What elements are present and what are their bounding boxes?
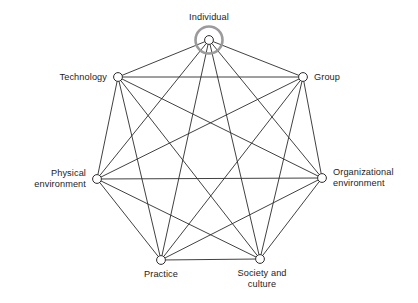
node-physical-environment[interactable] [93, 175, 102, 184]
node-technology[interactable] [114, 73, 123, 82]
node-individual[interactable] [205, 36, 214, 45]
edge-organizational-environment-to-practice [165, 180, 318, 258]
edge-individual-to-group [213, 42, 299, 76]
edge-practice-to-physical-environment [100, 182, 159, 256]
edge-organizational-environment-to-society-and-culture [263, 181, 320, 255]
edge-practice-to-technology [119, 81, 160, 255]
node-practice[interactable] [157, 256, 166, 265]
edge-physical-environment-to-technology [98, 81, 117, 174]
edge-individual-to-practice [162, 44, 208, 255]
edge-individual-to-technology [122, 42, 205, 76]
edge-organizational-environment-to-physical-environment [101, 178, 317, 179]
edge-society-and-culture-to-technology [121, 80, 258, 255]
edge-individual-to-society-and-culture [210, 44, 259, 254]
edge-individual-to-organizational-environment [212, 43, 319, 174]
node-layer [93, 27, 327, 265]
edge-group-to-society-and-culture [261, 81, 302, 254]
node-group[interactable] [299, 73, 308, 82]
edge-group-to-organizational-environment [304, 81, 321, 173]
node-organizational-environment[interactable] [318, 174, 327, 183]
socio-technical-framework-diagram: IndividualGroupOrganizationalenvironment… [0, 0, 418, 303]
edge-society-and-culture-to-practice [165, 259, 255, 260]
edge-group-to-practice [164, 80, 301, 256]
graph-canvas [0, 0, 418, 303]
edge-organizational-environment-to-technology [122, 79, 318, 176]
node-society-and-culture[interactable] [256, 255, 265, 264]
edge-society-and-culture-to-physical-environment [101, 181, 256, 257]
edge-layer [98, 42, 321, 260]
